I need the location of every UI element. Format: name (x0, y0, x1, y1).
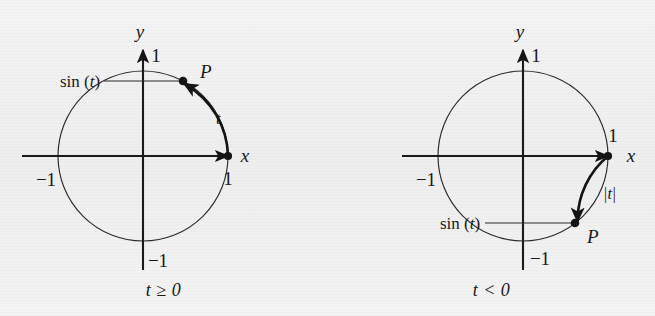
tick-label-y-bottom: −1 (148, 250, 168, 271)
point-p (571, 219, 580, 228)
axis-label-x: x (240, 145, 250, 166)
arc-t (186, 85, 229, 157)
point-p (179, 77, 188, 86)
sin-t-suffix: ) (94, 72, 100, 91)
axis-label-x: x (626, 145, 636, 166)
tick-label-y-bottom: −1 (530, 248, 550, 269)
tick-label-x-left: −1 (36, 169, 56, 190)
caption-left: t ≥ 0 (0, 280, 327, 301)
arc-length-label: t (216, 110, 221, 127)
tick-label-y-top: 1 (531, 45, 541, 66)
panel-t-nonnegative: 1 −1 −1 1 x y P t sin (t) t ≥ 0 (0, 0, 327, 316)
point-one-zero (224, 152, 232, 160)
axis-label-y: y (134, 21, 145, 42)
tick-label-x-left: −1 (416, 169, 436, 190)
point-one-zero (604, 152, 612, 160)
sin-t-label: sin (t) (60, 72, 100, 91)
arc-length-label: |t| (603, 185, 616, 203)
tick-label-x-right: 1 (608, 125, 618, 146)
sin-t-prefix: sin ( (60, 72, 90, 91)
tick-label-y-top: 1 (151, 45, 161, 66)
figure-page: 1 −1 −1 1 x y P t sin (t) t ≥ 0 (0, 0, 655, 316)
point-p-label: P (199, 61, 212, 82)
sin-t-suffix: ) (474, 214, 480, 233)
sin-t-prefix: sin ( (440, 214, 470, 233)
sin-t-label: sin (t) (440, 214, 480, 233)
point-p-label: P (586, 226, 599, 247)
caption-right: t < 0 (328, 280, 655, 301)
tick-label-x-right: 1 (223, 168, 233, 189)
panel-t-negative: 1 −1 −1 1 x y P |t| sin (t) t < 0 (328, 0, 655, 316)
axis-label-y: y (514, 21, 525, 42)
